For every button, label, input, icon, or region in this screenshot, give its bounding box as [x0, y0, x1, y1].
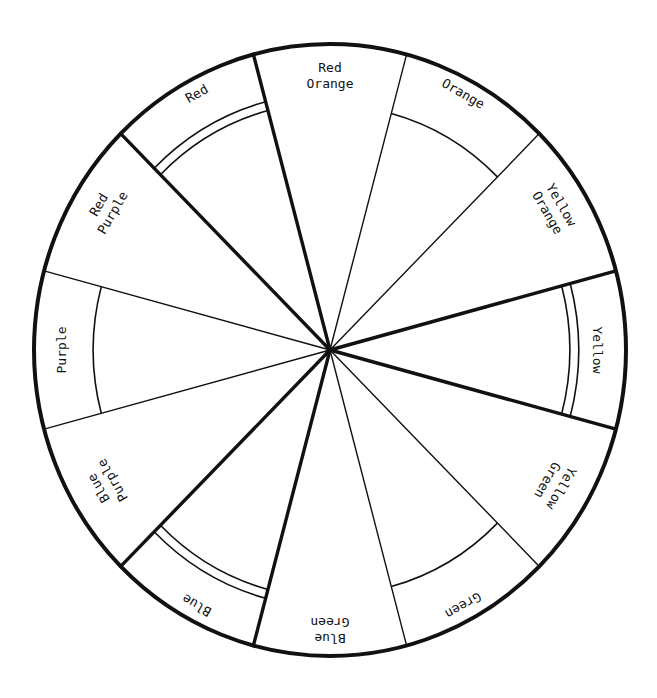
arc-blue-inner: [160, 525, 268, 589]
label-red: Red: [183, 81, 211, 106]
wheel-spokes: [44, 54, 616, 645]
spoke-yelloworange-orange: [330, 134, 539, 350]
label-red-orange-line2: Orange: [307, 76, 354, 91]
label-red-orange-line1: Red: [318, 60, 341, 75]
arc-yellow-inner: [562, 286, 570, 414]
spoke-yellowgreen-yellow: [330, 350, 616, 429]
spoke-green-yellowgreen: [330, 350, 539, 566]
arc-yellow-outer: [570, 284, 578, 417]
spoke-bluepurple-blue: [121, 350, 330, 566]
spoke-purple-bluepurple: [44, 350, 330, 429]
spoke-blue-bluegreen: [253, 350, 330, 646]
spoke-redorange-red: [253, 54, 330, 350]
spoke-red-redpurple: [121, 134, 330, 350]
spoke-bluegreen-green: [330, 350, 407, 646]
spoke-redpurple-purple: [44, 271, 330, 350]
arc-purple: [93, 287, 101, 414]
label-orange: Orange: [439, 75, 487, 112]
arc-orange: [391, 114, 497, 177]
spoke-orange-redorange: [330, 54, 407, 350]
label-blue-green-line2: Green: [310, 615, 349, 630]
arc-red-inner: [160, 111, 268, 175]
color-wheel-diagram: Red Orange Orange Yellow Orange Yellow Y…: [0, 0, 657, 698]
label-blue-green-line1: Blue: [314, 631, 345, 646]
label-yellow: Yellow: [590, 327, 605, 374]
arc-green: [391, 523, 497, 586]
spoke-yellow-yelloworange: [330, 271, 616, 350]
label-purple: Purple: [54, 326, 69, 373]
